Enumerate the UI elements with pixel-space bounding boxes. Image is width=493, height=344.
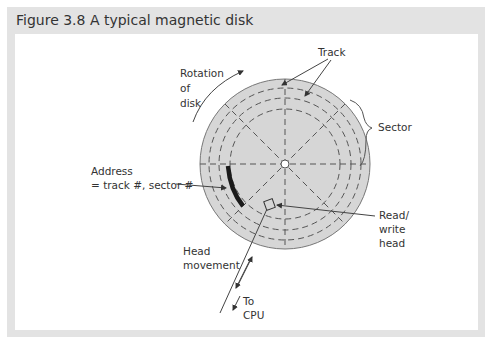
disk bbox=[200, 79, 370, 249]
sector-label: Sector bbox=[378, 121, 412, 133]
to-cpu-label-1: To bbox=[242, 295, 254, 307]
rotation-label-2: of bbox=[180, 82, 190, 94]
read-write-label-1: Read/ bbox=[379, 209, 409, 221]
to-cpu-label-2: CPU bbox=[243, 309, 264, 321]
spindle-hole bbox=[281, 160, 289, 168]
rotation-label-3: disk bbox=[180, 97, 202, 109]
address-label-2: = track #, sector # bbox=[91, 179, 193, 191]
read-write-label-3: head bbox=[379, 237, 405, 249]
rotation-label-1: Rotation bbox=[180, 67, 224, 79]
read-write-label-2: write bbox=[379, 223, 405, 235]
address-label-1: Address bbox=[91, 165, 133, 177]
head-movement-label-2: movement bbox=[183, 259, 240, 271]
head-movement-label-1: Head bbox=[183, 245, 210, 257]
track-label: Track bbox=[317, 46, 346, 58]
to-cpu-arrow bbox=[233, 296, 240, 310]
magnetic-disk-diagram: Track Sector Rotation of disk Address = … bbox=[0, 0, 493, 344]
